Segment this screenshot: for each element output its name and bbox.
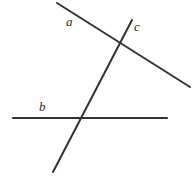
geometry-diagram: a b c	[0, 0, 194, 179]
diagram-canvas	[0, 0, 194, 179]
line-label-a: a	[66, 15, 73, 28]
line-c	[53, 20, 132, 172]
line-label-b: b	[39, 100, 46, 113]
line-label-c: c	[134, 20, 140, 33]
line-a	[57, 3, 190, 87]
